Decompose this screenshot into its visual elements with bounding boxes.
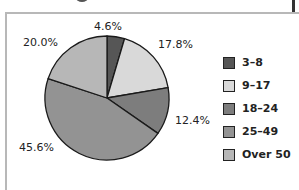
legend-label: 18–24	[242, 102, 278, 115]
legend-item-over-50: Over 50	[223, 143, 291, 166]
legend-swatch-18-24	[223, 103, 235, 115]
slice-label-9-17: 17.8%	[158, 38, 193, 51]
legend-item-18-24: 18–24	[223, 97, 291, 120]
legend: 3–8 9–17 18–24 25–49 Over 50	[223, 51, 291, 166]
legend-swatch-25-49	[223, 126, 235, 138]
slice-label-25-49: 45.6%	[19, 141, 54, 154]
legend-item-3-8: 3–8	[223, 51, 291, 74]
legend-label: 9–17	[242, 79, 270, 92]
legend-swatch-3-8	[223, 57, 235, 69]
legend-item-25-49: 25–49	[223, 120, 291, 143]
pie-slices	[45, 36, 169, 160]
legend-swatch-over-50	[223, 149, 235, 161]
legend-swatch-9-17	[223, 80, 235, 92]
legend-label: 25–49	[242, 125, 278, 138]
legend-label: 3–8	[242, 56, 263, 69]
slice-label-18-24: 12.4%	[175, 114, 210, 127]
legend-item-9-17: 9–17	[223, 74, 291, 97]
slice-label-over-50: 20.0%	[23, 36, 58, 49]
slice-label-3-8: 4.6%	[94, 20, 122, 33]
legend-label: Over 50	[242, 148, 291, 161]
